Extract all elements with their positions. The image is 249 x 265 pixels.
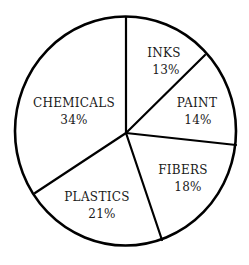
slice-label-fibers: FIBERS 18% [158, 163, 208, 194]
slice-label-paint: PAINT 14% [177, 96, 217, 127]
slice-name: CHEMICALS [33, 96, 115, 110]
slice-name: INKS [147, 46, 181, 60]
slice-label-plastics: PLASTICS 21% [64, 190, 129, 221]
slice-percent: 18% [174, 180, 202, 194]
slice-name: FIBERS [158, 163, 208, 177]
slice-label-chemicals: CHEMICALS 34% [33, 96, 115, 127]
slice-name: PLASTICS [64, 190, 129, 204]
spoke-plastics-chemicals [35, 133, 126, 193]
slice-percent: 13% [152, 63, 180, 77]
pie-chart: INKS 13% PAINT 14% FIBERS 18% PLASTICS 2… [0, 0, 249, 265]
spoke-paint-fibers [126, 133, 236, 145]
slice-percent: 34% [60, 113, 88, 127]
slice-name: PAINT [177, 96, 217, 110]
slice-label-inks: INKS 13% [147, 46, 181, 77]
spoke-fibers-plastics [126, 133, 162, 240]
slice-percent: 21% [88, 207, 116, 221]
slice-percent: 14% [184, 113, 212, 127]
